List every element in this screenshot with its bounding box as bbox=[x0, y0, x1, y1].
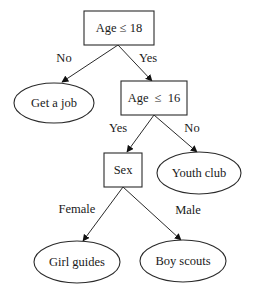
edge-age16-to-sex bbox=[127, 115, 154, 152]
node-label: Get a job bbox=[31, 96, 77, 110]
node-label: Boy scouts bbox=[155, 254, 210, 268]
node-boy-scouts: Boy scouts bbox=[140, 240, 226, 282]
edge-label-no: No bbox=[56, 51, 71, 65]
edge-label-male: Male bbox=[175, 203, 201, 217]
node-label: Age ≤ 16 bbox=[128, 91, 181, 105]
decision-tree-diagram: No Yes Yes No Female Male Age ≤ 18 Get a… bbox=[0, 0, 253, 296]
node-label: Girl guides bbox=[49, 255, 105, 269]
node-girl-guides: Girl guides bbox=[34, 241, 120, 283]
edge-sex-to-boy-scouts bbox=[123, 187, 181, 240]
node-root: Age ≤ 18 bbox=[84, 11, 154, 45]
node-label: Sex bbox=[114, 163, 134, 177]
node-age16: Age ≤ 16 bbox=[121, 81, 187, 115]
node-label: Age ≤ 18 bbox=[96, 21, 142, 35]
edge-label-no: No bbox=[184, 121, 199, 135]
edge-label-female: Female bbox=[59, 202, 96, 216]
edge-label-yes: Yes bbox=[109, 121, 127, 135]
node-youth-club: Youth club bbox=[157, 152, 241, 194]
node-get-a-job: Get a job bbox=[14, 83, 94, 123]
node-label: Youth club bbox=[172, 166, 227, 180]
edge-label-yes: Yes bbox=[139, 51, 157, 65]
node-sex: Sex bbox=[104, 153, 142, 187]
